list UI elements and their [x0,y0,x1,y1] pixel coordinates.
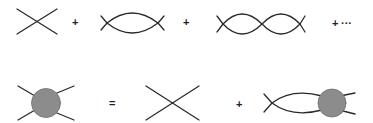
ellipsis: ··· [341,17,352,29]
plus-operator: + [183,16,189,28]
bottom-bubble-with-full-vertex [264,89,355,117]
full-vertex-blob [318,89,346,117]
bottom-tree-vertex [146,86,199,120]
bottom-lhs-full-vertex [18,86,74,120]
full-vertex-blob [32,89,61,118]
plus-operator: + [72,16,78,28]
top-tree-vertex [17,9,57,34]
equals-operator: = [109,97,115,109]
feynman-diagram-canvas: + + + ··· = + [0,0,373,123]
top-two-loop-bubble-chain [217,14,305,34]
plus-operator: + [236,98,242,110]
top-one-loop-bubble [101,13,164,33]
plus-operator: + [332,17,338,29]
